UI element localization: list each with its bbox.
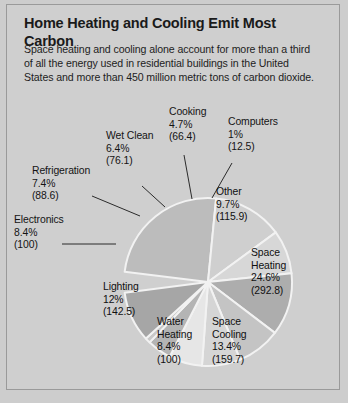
pie-slice-space-heating[interactable] <box>125 198 217 282</box>
slice-label-group-space-heating: Space Heating 24.6% (292.8) <box>251 247 286 297</box>
slice-value-lighting: (142.5) <box>103 306 139 319</box>
slice-label-group-space-cooling: Space Cooling 13.4% (159.7) <box>212 316 247 366</box>
slice-percent-refrigeration: 7.4% <box>32 178 90 191</box>
slice-percent-water-heating: 8.4% <box>157 341 192 354</box>
slice-label-cooking: Cooking <box>169 106 206 119</box>
slice-value-other: (115.9) <box>216 211 247 224</box>
slice-label-space-cooling-1: Space <box>212 316 247 329</box>
slice-callout-refrigeration: Refrigeration 7.4% (88.6) <box>32 165 90 203</box>
slice-percent-space-cooling: 13.4% <box>212 341 247 354</box>
slice-value-computers: (12.5) <box>228 141 278 154</box>
slice-value-refrigeration: (88.6) <box>32 190 90 203</box>
slice-label-space-heating-2: Heating <box>251 260 286 273</box>
slice-percent-lighting: 12% <box>103 294 139 307</box>
slice-percent-cooking: 4.7% <box>169 119 206 132</box>
slice-percent-other: 9.7% <box>216 199 247 212</box>
slice-label-water-heating-2: Heating <box>157 329 192 342</box>
slice-percent-electronics: 8.4% <box>14 227 64 240</box>
slice-percent-wet-clean: 6.4% <box>106 143 153 156</box>
slice-value-space-heating: (292.8) <box>251 285 286 298</box>
pie-chart: Wet Clean 6.4% (76.1) Refrigeration 7.4%… <box>0 0 348 403</box>
slice-label-group-lighting: Lighting 12% (142.5) <box>103 281 139 319</box>
figure-container: Home Heating and Cooling Emit Most Carbo… <box>0 0 348 403</box>
slice-percent-space-heating: 24.6% <box>251 272 286 285</box>
slice-value-water-heating: (100) <box>157 354 192 367</box>
slice-label-lighting: Lighting <box>103 281 139 294</box>
slice-callout-computers: Computers 1% (12.5) <box>228 116 278 154</box>
slice-label-space-heating-1: Space <box>251 247 286 260</box>
slice-label-computers: Computers <box>228 116 278 129</box>
slice-callout-wet-clean: Wet Clean 6.4% (76.1) <box>106 130 153 168</box>
slice-label-wet-clean: Wet Clean <box>106 130 153 143</box>
slice-value-space-cooling: (159.7) <box>212 354 247 367</box>
slice-label-group-other: Other 9.7% (115.9) <box>216 186 247 224</box>
slice-label-water-heating-1: Water <box>157 316 192 329</box>
slice-label-refrigeration: Refrigeration <box>32 165 90 178</box>
slice-callout-electronics: Electronics 8.4% (100) <box>14 214 64 252</box>
leader-line-wet-clean <box>142 186 165 207</box>
slice-label-group-water-heating: Water Heating 8.4% (100) <box>157 316 192 366</box>
leader-line-cooking <box>184 155 192 199</box>
slice-percent-computers: 1% <box>228 129 278 142</box>
slice-value-wet-clean: (76.1) <box>106 155 153 168</box>
slice-label-space-cooling-2: Cooling <box>212 329 247 342</box>
slice-label-electronics: Electronics <box>14 214 64 227</box>
slice-label-other: Other <box>216 186 247 199</box>
slice-callout-cooking: Cooking 4.7% (66.4) <box>169 106 206 144</box>
slice-value-cooking: (66.4) <box>169 131 206 144</box>
slice-value-electronics: (100) <box>14 239 64 252</box>
leader-line-refrigeration <box>92 196 140 216</box>
